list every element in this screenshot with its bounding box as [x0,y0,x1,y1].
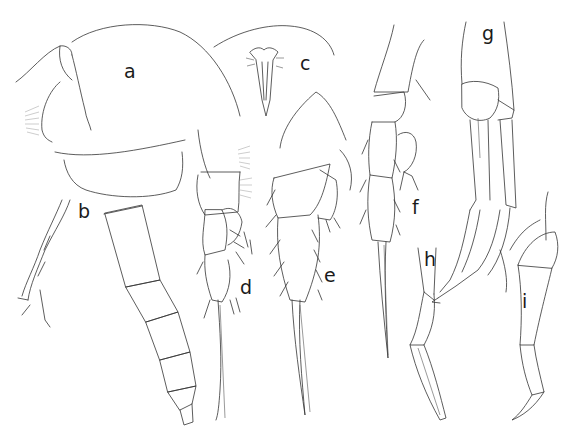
panel-i-drawing [500,192,558,420]
panel-label-g: g [482,24,494,43]
panel-label-f: f [412,198,419,217]
panel-a-drawing [16,25,252,215]
panel-label-c: c [300,54,310,73]
panel-f-drawing [360,25,430,358]
panel-b-drawing [18,200,196,425]
figure-plate: a b c d e f g h i [0,0,578,434]
panel-label-d: d [240,278,252,297]
panel-label-h: h [424,250,436,269]
panel-c-drawing [214,26,334,116]
panel-h-drawing [410,248,446,420]
panel-label-i: i [522,292,527,311]
panel-label-a: a [124,62,136,81]
panel-label-b: b [78,202,90,221]
panel-label-e: e [324,266,336,285]
panel-d-drawing [197,208,252,420]
panel-e-drawing [266,92,352,415]
